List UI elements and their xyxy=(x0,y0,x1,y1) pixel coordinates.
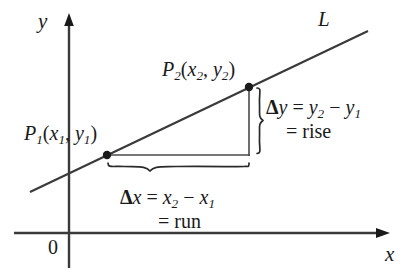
delta-y-equation: Δy = y2 − y1 xyxy=(266,96,361,118)
delta-y-minus: − xyxy=(324,96,345,118)
delta-y-equals: = xyxy=(287,96,308,118)
point-p2-label: P2(x2, y2) xyxy=(162,58,235,80)
delta-x-run-label: = run xyxy=(158,210,201,232)
p2-close-paren: ) xyxy=(228,58,235,80)
origin-label: 0 xyxy=(48,236,58,258)
x-axis-label: x xyxy=(385,243,394,267)
y-axis-arrowhead xyxy=(64,13,74,26)
x-axis-arrowhead xyxy=(376,228,390,238)
delta-y-rise-label: = rise xyxy=(286,120,331,142)
p2-var-y: y xyxy=(213,58,222,80)
p2-comma: , xyxy=(203,58,213,80)
p2-letter: P xyxy=(162,58,174,80)
point-p2-marker xyxy=(245,83,253,91)
delta-x-term1: x xyxy=(163,186,172,208)
delta-x-equals: = xyxy=(141,186,162,208)
p1-subscript: 1 xyxy=(36,132,43,147)
delta-y-term2-sub: 1 xyxy=(354,106,361,121)
p1-sub-x: 1 xyxy=(58,132,65,147)
p1-comma: , xyxy=(65,122,75,144)
point-p1-marker xyxy=(103,151,111,159)
delta-x-symbol: Δ xyxy=(120,186,133,208)
point-p1-label: P1(x1, y1) xyxy=(24,122,97,144)
delta-y-symbol: Δ xyxy=(266,96,279,118)
delta-x-term2-sub: 1 xyxy=(208,196,215,211)
slope-diagram: y x 0 L P2(x2, y2) P1(x1, y1) Δy = y2 − … xyxy=(0,0,410,279)
p1-letter: P xyxy=(24,122,36,144)
p1-var-y: y xyxy=(75,122,84,144)
y-axis-label: y xyxy=(38,10,47,34)
p1-close-paren: ) xyxy=(90,122,97,144)
delta-x-equation: Δx = x2 − x1 xyxy=(120,186,215,208)
line-name-label: L xyxy=(318,8,330,32)
p2-sub-x: 2 xyxy=(196,68,203,83)
rise-brace xyxy=(257,88,263,154)
p2-subscript: 2 xyxy=(174,68,181,83)
delta-y-term1: y xyxy=(309,96,318,118)
delta-x-minus: − xyxy=(178,186,199,208)
run-brace xyxy=(108,163,249,171)
